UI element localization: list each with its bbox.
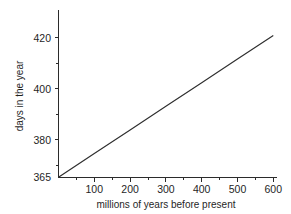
x-tick-label-600: 600 bbox=[265, 183, 283, 195]
x-tick-label-500: 500 bbox=[229, 183, 247, 195]
x-tick-label-100: 100 bbox=[86, 183, 104, 195]
x-tick-label-400: 400 bbox=[193, 183, 211, 195]
y-axis-title: days in the year bbox=[14, 60, 25, 131]
x-axis-title: millions of years before present bbox=[97, 199, 236, 210]
y-tick-label-380: 380 bbox=[33, 134, 51, 146]
y-tick-label-365: 365 bbox=[33, 171, 51, 183]
series-line-days-in-the-year bbox=[59, 35, 274, 177]
line-chart: 420 400 380 365 100 200 300 400 500 600 … bbox=[0, 0, 291, 214]
y-tick-label-420: 420 bbox=[33, 32, 51, 44]
x-tick-label-300: 300 bbox=[157, 183, 175, 195]
chart-canvas: 420 400 380 365 100 200 300 400 500 600 … bbox=[0, 0, 291, 214]
y-tick-label-400: 400 bbox=[33, 83, 51, 95]
x-tick-label-200: 200 bbox=[121, 183, 139, 195]
